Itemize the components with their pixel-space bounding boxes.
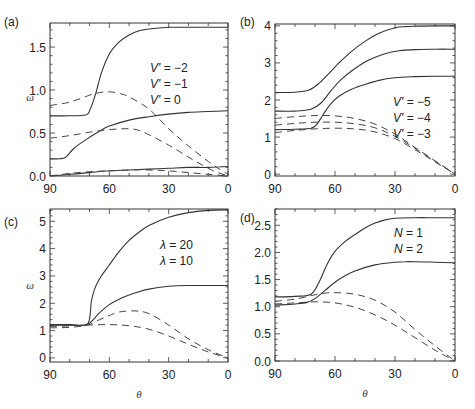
legend-value: = −2 (160, 61, 188, 75)
y-tick-label: 1.0 (254, 300, 271, 314)
y-tick-label: 2 (39, 297, 46, 311)
x-tick-label: 0 (225, 368, 232, 382)
y-tick-label: 2.0 (254, 246, 271, 260)
panel-d: (d)90603000.00.51.01.52.02.5θN = 1N = 2 (240, 209, 459, 399)
solid-curve (275, 262, 455, 305)
x-tick-label: 60 (328, 182, 342, 196)
dashed-curve (50, 129, 228, 176)
x-tick-label: 60 (103, 368, 117, 382)
x-tick-label: 60 (328, 367, 342, 381)
x-axis-label: θ (136, 388, 142, 400)
x-tick-label: 60 (103, 182, 117, 196)
series-group (50, 210, 228, 358)
legend: N = 1N = 2 (394, 226, 423, 256)
y-axis-label: ω (26, 279, 34, 291)
x-tick-label: 90 (268, 182, 282, 196)
plot-frame (275, 209, 455, 361)
legend-entry: λ = 20 (159, 238, 193, 252)
legend-value: = −4 (403, 111, 431, 125)
solid-curve (50, 167, 228, 177)
x-axis-label: θ (362, 387, 368, 399)
y-tick-label: 1 (39, 324, 46, 338)
legend-value: = 1 (403, 226, 424, 240)
dashed-curve (275, 302, 455, 361)
legend-entry: N = 2 (394, 242, 423, 256)
dashed-curve (50, 311, 228, 358)
panel-a: (a)90603000.00.51.01.5ωV' = −2V' = −1V' … (4, 15, 232, 196)
panel-label: (d) (240, 211, 255, 225)
y-tick-label: 1 (264, 131, 271, 145)
y-tick-label: 1.5 (29, 41, 46, 55)
legend-entry: V' = 0 (150, 93, 181, 107)
legend-entry: V' = −4 (393, 111, 431, 125)
legend-value: = 2 (403, 242, 424, 256)
legend: V' = −5V' = −4V' = −3 (393, 95, 431, 141)
y-tick-label: 0 (264, 168, 271, 182)
panel-b: (b)906030001234V' = −5V' = −4V' = −3 (240, 15, 459, 196)
y-tick-label: 0.0 (254, 355, 271, 369)
panel-c: (c)9060300012345ωθλ = 20λ = 10 (4, 209, 232, 400)
solid-curve (50, 27, 228, 116)
y-tick-label: 0 (39, 351, 46, 365)
x-tick-label: 30 (162, 182, 176, 196)
legend-entry: λ = 10 (159, 254, 193, 268)
y-tick-label: 1.5 (254, 273, 271, 287)
legend-value: = 0 (160, 93, 181, 107)
x-tick-label: 90 (43, 182, 57, 196)
x-tick-label: 0 (225, 182, 232, 196)
y-tick-label: 2.5 (254, 219, 271, 233)
y-tick-label: 2 (264, 94, 271, 108)
x-tick-label: 90 (43, 368, 57, 382)
y-tick-label: 0.5 (29, 127, 46, 141)
legend: λ = 20λ = 10 (159, 238, 193, 268)
x-tick-label: 90 (268, 367, 282, 381)
legend-value: = −3 (403, 127, 431, 141)
solid-curve (50, 210, 228, 326)
panel-label: (a) (4, 15, 19, 29)
legend-symbol: N (394, 242, 403, 256)
legend-entry: V' = −1 (150, 77, 188, 91)
legend-entry: V' = −2 (150, 61, 188, 75)
solid-curve (275, 218, 455, 297)
y-tick-label: 0.0 (29, 170, 46, 184)
y-tick-label: 3 (264, 56, 271, 70)
solid-curve (275, 26, 455, 93)
legend-entry: N = 1 (394, 226, 423, 240)
legend: V' = −2V' = −1V' = 0 (150, 61, 188, 107)
x-tick-label: 30 (388, 182, 402, 196)
x-tick-label: 30 (388, 367, 402, 381)
legend-symbol: N (394, 226, 403, 240)
series-group (275, 218, 455, 361)
series-group (50, 27, 228, 176)
legend-value: = −1 (160, 77, 188, 91)
y-tick-label: 4 (39, 242, 46, 256)
legend-value: = 20 (166, 238, 193, 252)
legend-value: = −5 (403, 95, 431, 109)
solid-curve (50, 285, 228, 325)
figure-canvas: (a)90603000.00.51.01.5ωV' = −2V' = −1V' … (0, 0, 475, 409)
panel-label: (b) (240, 15, 255, 29)
legend-value: = 10 (166, 254, 193, 268)
panel-label: (c) (4, 215, 18, 229)
y-axis-label: ω (26, 91, 34, 103)
y-tick-label: 4 (264, 19, 271, 33)
dashed-curve (50, 325, 228, 358)
y-tick-label: 0.5 (254, 327, 271, 341)
dashed-curve (50, 170, 228, 176)
legend-entry: V' = −5 (393, 95, 431, 109)
x-tick-label: 30 (162, 368, 176, 382)
x-tick-label: 0 (452, 182, 459, 196)
x-tick-label: 0 (452, 367, 459, 381)
y-tick-label: 3 (39, 269, 46, 283)
legend-entry: V' = −3 (393, 127, 431, 141)
y-tick-label: 5 (39, 215, 46, 229)
dashed-curve (50, 92, 228, 175)
